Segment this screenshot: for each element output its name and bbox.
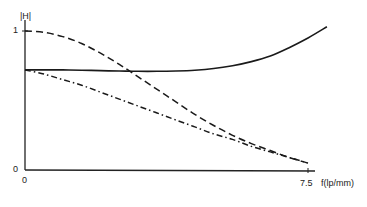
- x-tick-label-0: 0: [22, 176, 27, 185]
- x-tick-label-7.5: 7.5: [300, 179, 313, 188]
- x-axis: [25, 170, 315, 171]
- chart-plot-area: [0, 0, 367, 207]
- y-tick-label-0: 0: [13, 165, 18, 174]
- series-line-dashed: [25, 31, 308, 163]
- series-line-solid: [25, 27, 327, 72]
- y-tick-label-1: 1: [13, 26, 18, 35]
- y-axis-label: |H|: [20, 12, 31, 21]
- x-axis-label: f(lp/mm): [321, 179, 354, 188]
